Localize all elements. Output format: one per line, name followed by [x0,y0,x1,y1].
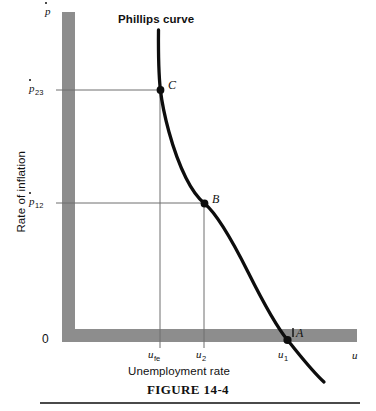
x-axis-title: Unemployment rate [128,366,230,378]
y-axis-bar [62,12,75,342]
figure-caption: FIGURE 14-4 [0,382,376,398]
data-point-A [283,336,291,344]
y-tick-label-p12: p12 [29,196,43,207]
x-tick-label-u1: u1 [278,349,288,360]
data-point-C [157,86,165,94]
caption-divider [40,402,360,404]
origin-label: 0 [42,333,49,345]
point-label-b: B [212,193,219,205]
figure-container: p p23 p12 0 ufe u2 u1 u C B A Rate of in… [0,0,376,411]
data-point-B [201,200,209,208]
x-tick-label-ufe: ufe [148,349,160,360]
phillips-curve-plot [0,0,376,411]
y-tick-label-p23: p23 [29,83,43,94]
x-tick-label-u2: u2 [196,349,206,360]
x-axis-bar [62,329,357,342]
x-axis-variable: u [352,350,358,361]
point-label-a: A [296,327,303,339]
phillips-curve-label: Phillips curve [118,14,194,26]
point-label-c: C [168,79,176,91]
y-axis-variable: p [45,6,51,17]
y-axis-title: Rate of inflation [16,137,28,247]
